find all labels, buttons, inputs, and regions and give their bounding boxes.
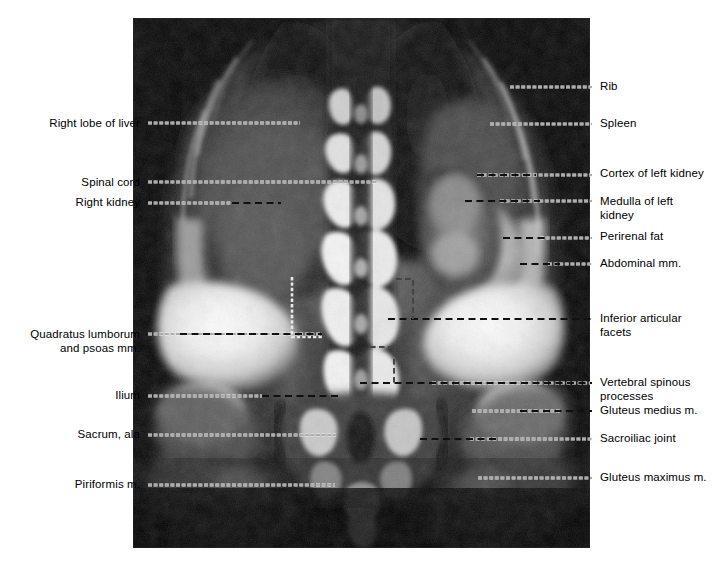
label-sacroiliac-joint: Sacroiliac joint [600,432,676,446]
label-cortex-of-left-kidney: Cortex of left kidney [600,167,704,181]
label-right-lobe-of-liver: Right lobe of liver [49,117,140,131]
label-quadratus-lumborum-and-psoas-mm: Quadratus lumborum and psoas mm. [30,328,140,355]
label-spinal-cord: Spinal cord [81,176,140,190]
label-perirenal-fat: Perirenal fat [600,230,663,244]
mri-texture-grain [133,18,590,548]
label-medulla-of-left-kidney: Medulla of left kidney [600,195,673,222]
label-piriformis-m: Piriformis m. [75,478,140,492]
label-rib: Rib [600,80,618,94]
label-spleen: Spleen [600,117,636,131]
label-inferior-articular-facets: Inferior articular facets [600,312,682,339]
label-abdominal-mm: Abdominal mm. [600,257,681,271]
label-gluteus-medius-m: Gluteus medius m. [600,404,698,418]
annotated-mri-figure: Right lobe of liver Spinal cord Right ki… [0,0,718,567]
label-sacrum-ala: Sacrum, ala [78,428,140,442]
label-right-kidney: Right kidney [76,196,140,210]
label-ilium: Ilium [115,389,140,403]
label-gluteus-maximus-m: Gluteus maximus m. [600,471,707,485]
mri-image-plate [133,18,590,548]
label-vertebral-spinous-processes: Vertebral spinous processes [600,376,691,403]
mri-coronal-scan [133,18,590,548]
